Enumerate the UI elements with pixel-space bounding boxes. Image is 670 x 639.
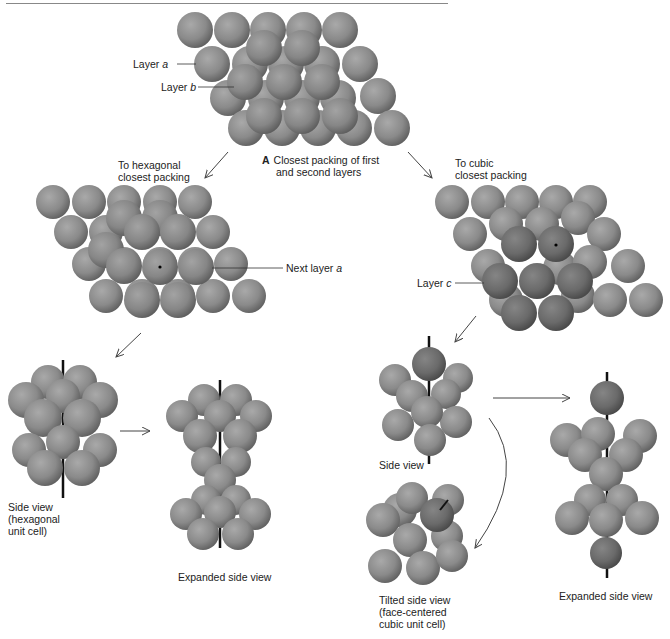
layer-a-label: Layer a [133,58,168,70]
closest-packing-caption-line2: and second layers [276,166,361,178]
hex-expanded [166,384,272,550]
cubic-heading: To cubic closest packing [455,157,527,181]
closest-packing-caption: AClosest packing of first [262,154,379,166]
hex-side-view-label: Side view (hexagonal unit cell) [8,501,60,537]
cubic-expanded [550,381,659,569]
cubic-side-view-label: Side view [379,459,424,471]
layer-b-label: Layer b [161,81,196,93]
hex-expanded-label: Expanded side view [178,571,271,583]
layer-c-label: Layer c [417,277,451,289]
cubic-tilted-view [366,482,468,585]
packing-diagram [0,0,670,639]
hexagonal-heading: To hexagonal closest packing [118,159,190,183]
next-layer-a-label: Next layer a [286,262,342,274]
cubic-side-view [379,347,473,456]
cubic-expanded-label: Expanded side view [559,590,652,602]
cubic-tilted-view-label: Tilted side view (face-centered cubic un… [379,594,450,630]
